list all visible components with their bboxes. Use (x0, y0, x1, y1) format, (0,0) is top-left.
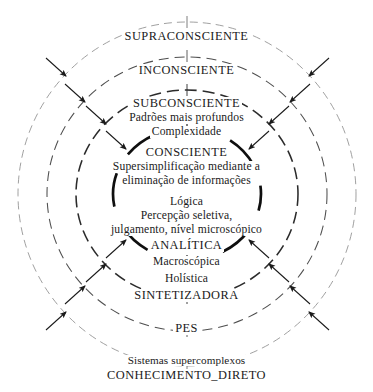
arrow-inward-ur-1 (309, 58, 329, 76)
arrow-inward-ul-2 (65, 84, 85, 102)
ring-consciente (113, 128, 261, 260)
arrow-inward-ur-3 (269, 106, 289, 124)
arrow-inward-ll-2 (65, 286, 85, 304)
arrow-inward-ul-4 (106, 131, 126, 149)
arrow-inward-ll-3 (86, 264, 106, 282)
arrow-inward-ll-4 (106, 240, 126, 258)
arrow-inward-ul-1 (46, 58, 66, 76)
arrow-inward-ur-4 (249, 131, 269, 149)
rings-svg (0, 0, 373, 392)
arrow-inward-ll-1 (46, 312, 66, 330)
ring-subconsciente (76, 90, 298, 298)
consciousness-levels-diagram: SUPRACONSCIENTE INCONSCIENTE SUBCONSCIEN… (0, 0, 373, 392)
arrow-inward-lr-2 (290, 286, 310, 304)
arrow-inward-lr-3 (269, 264, 289, 282)
arrow-inward-ur-2 (290, 84, 310, 102)
arrow-inward-lr-4 (249, 240, 269, 258)
arrow-inward-ul-3 (86, 106, 106, 124)
arrow-inward-lr-1 (309, 312, 329, 330)
ring-supraconsciente (18, 22, 356, 366)
ring-inconsciente (47, 57, 327, 331)
